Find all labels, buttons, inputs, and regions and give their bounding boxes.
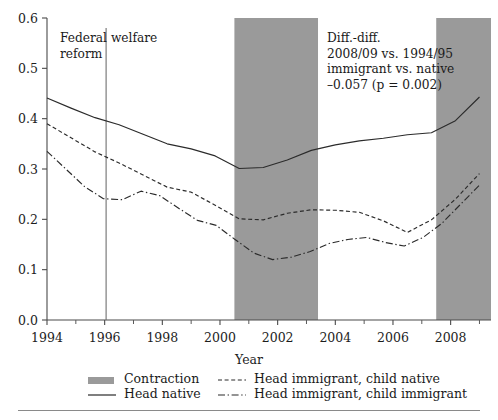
welfare-reform-annotation-line: reform: [60, 47, 103, 61]
y-axis-tick-label: 0.4: [18, 111, 38, 126]
x-axis-tick-label: 2000: [204, 330, 236, 345]
diff-in-diff-annotation-line: immigrant vs. native: [327, 62, 454, 76]
x-axis-tick-label: 2006: [377, 330, 409, 345]
x-axis-tick-label: 2002: [262, 330, 294, 345]
x-axis-tick-label: 1998: [146, 330, 178, 345]
y-axis-tick-label: 0.1: [18, 262, 38, 277]
y-axis-tick-label: 0.0: [18, 313, 38, 328]
legend-label: Head immigrant, child immigrant: [254, 386, 467, 401]
y-axis-tick-label: 0.6: [18, 11, 38, 26]
chart-legend: ContractionHead nativeHead immigrant, ch…: [88, 371, 467, 401]
legend-label: Contraction: [124, 371, 199, 386]
y-axis-tick-label: 0.3: [18, 162, 38, 177]
x-axis-tick-label: 1996: [89, 330, 121, 345]
contraction-band: [234, 18, 318, 320]
diff-in-diff-annotation-line: 2008/09 vs. 1994/95: [327, 47, 453, 61]
diff-in-diff-annotation-line: Diff.-diff.: [327, 31, 381, 45]
welfare-participation-line-chart: Federal welfarereformDiff.-diff.2008/09 …: [0, 0, 498, 420]
y-axis-tick-label: 0.2: [18, 212, 38, 227]
legend-label: Head immigrant, child native: [254, 371, 440, 386]
legend-item: Head immigrant, child immigrant: [218, 386, 467, 401]
x-axis-tick-label: 2008: [435, 330, 467, 345]
y-axis-tick-label: 0.5: [18, 61, 38, 76]
legend-swatch-contraction: [88, 377, 114, 384]
x-axis-title: Year: [234, 352, 263, 367]
x-axis-tick-label: 2004: [319, 330, 351, 345]
chart-figure: Federal welfarereformDiff.-diff.2008/09 …: [0, 0, 498, 420]
welfare-reform-annotation-line: Federal welfare: [60, 31, 157, 45]
x-axis-tick-label: 1994: [31, 330, 63, 345]
diff-in-diff-annotation-line: –0.057 (p = 0.002): [327, 78, 442, 92]
legend-label: Head native: [124, 386, 201, 401]
